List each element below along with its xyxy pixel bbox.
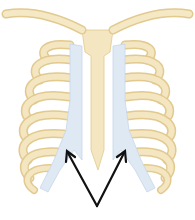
ribs-left bbox=[23, 44, 72, 190]
arrow-left-icon bbox=[68, 153, 97, 206]
rib-cage-illustration bbox=[0, 0, 195, 220]
ribs-right bbox=[123, 44, 172, 190]
clavicles bbox=[6, 13, 189, 30]
sternum bbox=[82, 30, 113, 170]
